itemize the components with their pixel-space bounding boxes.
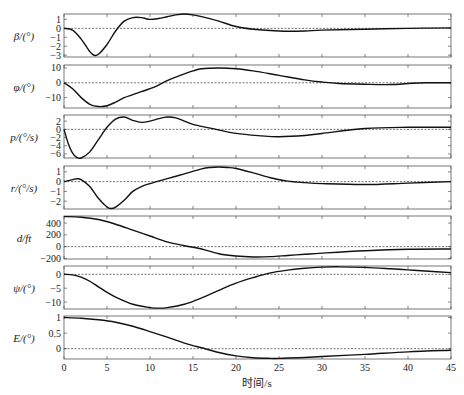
- y-axis-label: r/(°/s): [11, 182, 38, 195]
- y-tick-label: 0: [56, 241, 61, 252]
- panel-5: 0−5−10ψ/(°): [13, 266, 451, 309]
- series-line: [64, 267, 451, 308]
- y-axis-label: p/(°/s): [9, 131, 38, 144]
- x-tick-label: 15: [188, 362, 198, 373]
- y-tick-label: −200: [40, 253, 61, 264]
- panel-1: 100−10φ/(°): [14, 62, 451, 108]
- y-axis-label: φ/(°): [14, 81, 35, 94]
- y-axis-label: β/(°): [13, 30, 35, 43]
- y-tick-label: −10: [45, 92, 61, 103]
- panel-2: 20−2−4−6p/(°/s): [9, 115, 451, 159]
- y-tick-label: 200: [46, 229, 61, 240]
- x-tick-label: 40: [403, 362, 413, 373]
- x-tick-label: 20: [231, 362, 241, 373]
- series-line: [64, 318, 451, 359]
- chart-canvas: 10−1−2−3β/(°)100−10φ/(°)20−2−4−6p/(°/s)1…: [0, 0, 464, 395]
- y-tick-label: 1: [56, 312, 61, 323]
- x-tick-label: 30: [317, 362, 327, 373]
- y-tick-label: −5: [50, 283, 61, 294]
- y-tick-label: 0: [56, 269, 61, 280]
- x-tick-label: 10: [145, 362, 155, 373]
- y-axis-label: E/(°): [12, 332, 35, 345]
- y-axis-label: ψ/(°): [13, 282, 35, 295]
- series-line: [64, 117, 451, 159]
- y-tick-label: −2: [50, 196, 61, 207]
- x-tick-label: 45: [446, 362, 456, 373]
- multi-panel-time-response-figure: 10−1−2−3β/(°)100−10φ/(°)20−2−4−6p/(°/s)1…: [0, 0, 464, 395]
- panels-group: 10−1−2−3β/(°)100−10φ/(°)20−2−4−6p/(°/s)1…: [9, 14, 451, 359]
- panel-6: 10.50E/(°): [12, 312, 451, 359]
- y-tick-label: 0.5: [49, 328, 62, 339]
- x-tick-label: 0: [62, 362, 67, 373]
- panel-frame: [64, 14, 451, 57]
- y-tick-label: −3: [50, 50, 61, 61]
- series-line: [64, 14, 451, 56]
- x-axis-label: 时间/s: [242, 377, 271, 389]
- series-line: [64, 68, 451, 107]
- y-tick-label: −10: [45, 297, 61, 308]
- y-tick-label: 0: [56, 343, 61, 354]
- y-axis-label: d/ft: [17, 232, 33, 244]
- panel-frame: [64, 115, 451, 158]
- x-tick-label: 5: [105, 362, 110, 373]
- panel-0: 10−1−2−3β/(°): [13, 14, 451, 61]
- panel-frame: [64, 216, 451, 259]
- x-tick-label: 25: [274, 362, 284, 373]
- y-tick-label: −6: [50, 148, 61, 159]
- panel-3: 10−1−2r/(°/s): [11, 166, 451, 209]
- shared-x-axis: 051015202530354045: [62, 362, 457, 373]
- panel-frame: [64, 266, 451, 309]
- y-tick-label: 10: [51, 62, 61, 73]
- series-line: [64, 167, 451, 209]
- y-tick-label: 0: [56, 77, 61, 88]
- series-line: [64, 217, 451, 257]
- x-tick-label: 35: [360, 362, 370, 373]
- y-tick-label: 400: [46, 218, 61, 229]
- panel-4: 4002000−200d/ft: [17, 216, 451, 264]
